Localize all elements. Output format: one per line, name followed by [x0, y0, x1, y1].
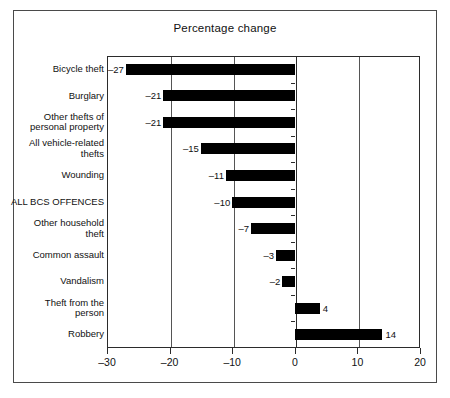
bar-value-label: –11: [209, 170, 224, 181]
x-axis-tick: [357, 348, 358, 354]
category-label: Burglary: [8, 91, 104, 102]
axis-tickmark: [291, 242, 295, 243]
axis-tickmark: [291, 295, 295, 296]
bar-value-label: –2: [270, 276, 281, 287]
bar: [295, 329, 383, 340]
axis-tickmark: [291, 215, 295, 216]
bar-value-label: –7: [238, 223, 249, 234]
bar: [276, 250, 295, 261]
axis-tickmark: [291, 136, 295, 137]
x-axis-tick-label: 10: [352, 356, 364, 368]
bar-value-label: –10: [214, 197, 230, 208]
category-label: Other thefts of personal property: [8, 112, 104, 133]
axis-tickmark: [291, 268, 295, 269]
bar: [226, 170, 295, 181]
chart-title: Percentage change: [13, 22, 437, 34]
x-axis-tick-label: –10: [223, 356, 241, 368]
axis-tickmark: [291, 162, 295, 163]
x-axis-tick: [170, 348, 171, 354]
category-label: All vehicle-related thefts: [8, 138, 104, 159]
bar-value-label: 14: [385, 329, 396, 340]
bar-value-label: –21: [145, 117, 161, 128]
bar: [163, 90, 294, 101]
bar: [126, 64, 295, 75]
axis-tickmark: [291, 83, 295, 84]
bar: [282, 276, 295, 287]
x-axis-tick-label: 20: [414, 356, 426, 368]
category-labels: Bicycle theftBurglaryOther thefts of per…: [8, 56, 104, 348]
chart-figure: Percentage change Bicycle theftBurglaryO…: [0, 0, 450, 398]
axis-tickmark: [291, 189, 295, 190]
category-label: Wounding: [8, 170, 104, 181]
x-axis-tick-label: –20: [161, 356, 179, 368]
category-label: Common assault: [8, 250, 104, 261]
x-axis-tick: [295, 348, 296, 354]
bar-value-label: –21: [145, 90, 161, 101]
bars-layer: –27–21–21–15–11–10–7–3–2414: [107, 56, 420, 348]
bar-value-label: –27: [108, 64, 124, 75]
category-label: Vandalism: [8, 276, 104, 287]
category-label: Bicycle theft: [8, 64, 104, 75]
bar: [295, 303, 320, 314]
category-label: Other household theft: [8, 218, 104, 239]
x-axis-tick-label: –30: [98, 356, 116, 368]
bar-value-label: –3: [263, 250, 274, 261]
category-label: Theft from the person: [8, 298, 104, 319]
bar-value-label: 4: [323, 303, 328, 314]
bar-value-label: –15: [183, 143, 199, 154]
bar: [163, 117, 294, 128]
x-axis: –30–20–1001020: [107, 348, 420, 378]
category-label: Robbery: [8, 329, 104, 340]
x-axis-tick-label: 0: [292, 356, 298, 368]
axis-tickmark: [291, 109, 295, 110]
x-axis-tick: [107, 348, 108, 354]
axis-tickmark: [291, 321, 295, 322]
category-label: ALL BCS OFFENCES: [8, 197, 104, 208]
bar: [232, 197, 295, 208]
bar: [201, 143, 295, 154]
x-axis-tick: [420, 348, 421, 354]
x-axis-tick: [232, 348, 233, 354]
bar: [251, 223, 295, 234]
